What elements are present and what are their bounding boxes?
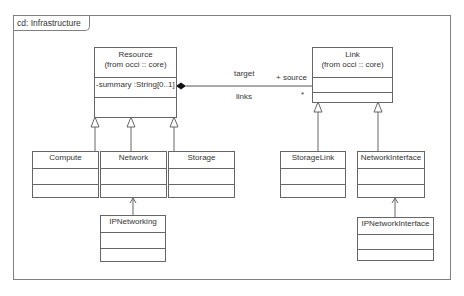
class-ipnetworkinterface[interactable]: IPNetworkInterface [357,217,434,261]
attribute-summary: -summary :String[0..1] [95,78,176,92]
class-compute[interactable]: Compute [32,151,99,198]
class-name: Compute [33,152,98,169]
operations-compartment [95,98,176,122]
operations-compartment [101,249,165,265]
class-name: IPNetworking [101,216,165,233]
operations-compartment [33,185,98,201]
class-networkinterface[interactable]: NetworkInterface [357,151,425,198]
class-link[interactable]: Link (from occi :: core) [312,47,393,103]
class-name: IPNetworkInterface [358,218,433,235]
class-header: Link (from occi :: core) [313,48,392,78]
class-storage[interactable]: Storage [168,151,235,198]
composition-diamond-icon [176,83,186,90]
operations-compartment [281,185,345,201]
class-network[interactable]: Network [100,151,167,198]
class-storagelink[interactable]: StorageLink [280,151,346,198]
attributes-compartment [101,169,166,185]
class-name: Resource [96,50,175,60]
assoc-label-links: links [236,92,252,101]
class-name: NetworkInterface [358,152,424,169]
attributes-compartment [33,169,98,185]
attributes-compartment [358,235,433,250]
class-name: Storage [169,152,234,169]
attributes-compartment: -summary :String[0..1] [95,78,176,98]
class-name: StorageLink [281,152,345,169]
assoc-multiplicity: * [301,90,304,99]
class-header: Resource (from occi :: core) [95,48,176,78]
assoc-label-target: target [234,69,254,78]
attributes-compartment [358,169,424,185]
assoc-label-source: + source [276,73,307,82]
operations-compartment [101,185,166,201]
operations-compartment [358,250,433,264]
class-package: (from occi :: core) [314,60,391,70]
operations-compartment [169,185,234,201]
class-name: Network [101,152,166,169]
class-resource[interactable]: Resource (from occi :: core) -summary :S… [94,47,177,118]
class-name: Link [314,50,391,60]
class-package: (from occi :: core) [96,60,175,70]
class-ipnetworking[interactable]: IPNetworking [100,215,166,262]
attributes-compartment [101,233,165,249]
operations-compartment [313,93,392,107]
attributes-compartment [281,169,345,185]
attributes-compartment [169,169,234,185]
operations-compartment [358,185,424,201]
attributes-compartment [313,78,392,93]
